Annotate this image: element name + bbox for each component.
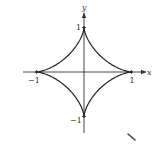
astroid-diagram: x y 1 −1 1 −1: [0, 0, 158, 155]
x-axis-label: x: [147, 68, 152, 77]
tick-label-x-neg: −1: [28, 76, 40, 85]
pencil-mark: [128, 134, 135, 140]
tick-label-x-pos: 1: [130, 76, 135, 85]
tick-label-y-pos: 1: [76, 23, 81, 32]
y-axis-label: y: [81, 3, 87, 12]
tick-label-y-neg: −1: [70, 116, 82, 125]
